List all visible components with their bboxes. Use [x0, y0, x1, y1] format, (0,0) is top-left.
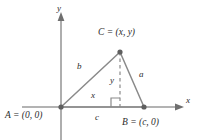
vertex-a: [58, 104, 63, 109]
side-b-label: b: [77, 62, 82, 71]
vertex-b-label: B = (c, 0): [122, 118, 159, 128]
y-axis-arrowhead: [58, 12, 65, 21]
y-axis: [58, 12, 65, 140]
vertex-c: [117, 49, 122, 54]
side-a-label: a: [139, 70, 144, 79]
x-axis-arrowhead: [175, 104, 184, 111]
base-c-label: c: [95, 113, 99, 122]
vertex-a-label: A = (0, 0): [5, 111, 42, 121]
triangle-side-a: [120, 52, 144, 107]
vertex-b: [141, 104, 146, 109]
vertex-c-label: C = (x, y): [98, 28, 135, 38]
x-axis-label: x: [186, 96, 190, 105]
altitude-y-label: y: [110, 76, 114, 85]
right-angle-marker: [111, 98, 120, 107]
base-x-label: x: [91, 91, 95, 100]
y-axis-label: y: [57, 4, 61, 13]
coordinate-triangle-figure: y x A = (0, 0) B = (c, 0) C = (x, y) b a…: [0, 0, 199, 140]
